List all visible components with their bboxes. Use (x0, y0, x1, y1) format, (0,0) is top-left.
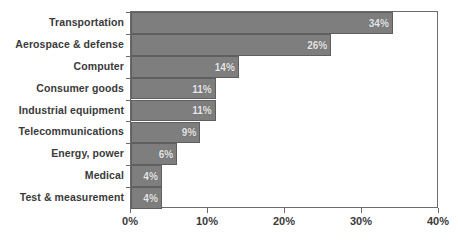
bar-row: 11% (131, 100, 437, 122)
category-label: Energy, power (0, 148, 124, 159)
bar: 4% (131, 187, 162, 209)
x-axis-tick-label: 10% (196, 215, 218, 227)
x-axis-tick-label: 30% (350, 215, 372, 227)
category-axis-labels: TransportationAerospace & defenseCompute… (0, 12, 124, 208)
category-label: Computer (0, 61, 124, 72)
plot-area: 34%26%14%11%11%9%6%4%4% (130, 11, 438, 208)
x-axis-tick-label: 0% (122, 215, 138, 227)
bar-chart: TransportationAerospace & defenseCompute… (0, 0, 458, 249)
y-axis-tick (126, 12, 131, 13)
bar-row: 11% (131, 78, 437, 100)
category-label: Test & measurement (0, 192, 124, 203)
bar: 11% (131, 100, 216, 122)
bar: 4% (131, 165, 162, 187)
x-axis-ticks (130, 208, 438, 214)
x-axis-tick-label: 40% (427, 215, 449, 227)
bar-row: 26% (131, 34, 437, 56)
category-label: Consumer goods (0, 83, 124, 94)
x-axis-tick (361, 208, 362, 213)
bar: 6% (131, 143, 177, 165)
y-axis-tick (126, 121, 131, 122)
bar-value-label: 9% (182, 127, 196, 138)
bar: 14% (131, 56, 239, 78)
x-axis-labels: 0%10%20%30%40% (0, 215, 458, 235)
bar-value-label: 26% (307, 39, 327, 50)
y-axis-tick (126, 165, 131, 166)
y-axis-tick (126, 56, 131, 57)
bar-series: 34%26%14%11%11%9%6%4%4% (131, 12, 437, 207)
bar: 11% (131, 78, 216, 100)
bar: 26% (131, 34, 331, 56)
bar-row: 6% (131, 143, 437, 165)
bar-row: 14% (131, 56, 437, 78)
bar-value-label: 4% (143, 193, 157, 204)
bar-value-label: 4% (143, 171, 157, 182)
bar-row: 9% (131, 122, 437, 144)
bar-value-label: 6% (159, 149, 173, 160)
x-axis-tick (438, 208, 439, 213)
category-label: Transportation (0, 17, 124, 28)
y-axis-tick (126, 100, 131, 101)
bar-value-label: 11% (192, 83, 211, 94)
y-axis-tick (126, 143, 131, 144)
bar-value-label: 14% (215, 61, 235, 72)
bar-value-label: 34% (369, 17, 389, 28)
y-axis-tick (126, 34, 131, 35)
x-axis-tick (284, 208, 285, 213)
x-axis-tick (130, 208, 131, 213)
bar-row: 4% (131, 165, 437, 187)
y-axis-tick (126, 78, 131, 79)
bar-row: 34% (131, 12, 437, 34)
bar: 34% (131, 12, 393, 34)
bar-row: 4% (131, 187, 437, 209)
x-axis-tick-label: 20% (273, 215, 295, 227)
bar: 9% (131, 122, 200, 144)
x-axis-tick (207, 208, 208, 213)
category-label: Aerospace & defense (0, 39, 124, 50)
category-label: Telecommunications (0, 126, 124, 137)
bar-value-label: 11% (192, 105, 211, 116)
category-label: Medical (0, 170, 124, 181)
y-axis-tick (126, 187, 131, 188)
category-label: Industrial equipment (0, 105, 124, 116)
